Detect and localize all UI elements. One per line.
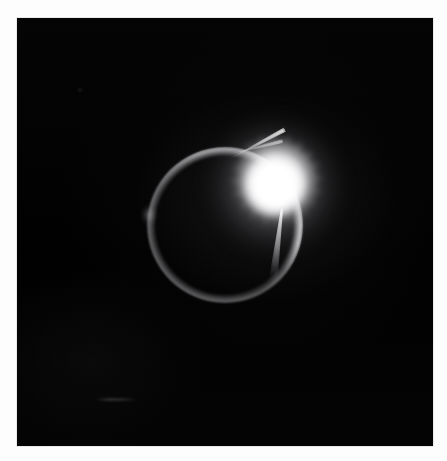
corona-ring-base	[147, 147, 303, 303]
film-base-texture	[17, 18, 433, 446]
flare-spike-upper-left	[229, 127, 286, 161]
eclipse-photograph	[17, 18, 433, 446]
dust-speck-artifact	[78, 89, 82, 91]
limb-brightening-bead	[141, 204, 157, 226]
corona-ring-upper-arc	[147, 147, 303, 303]
diamond-bead-core	[241, 151, 309, 219]
diamond-bead-ragged-halo	[218, 128, 332, 242]
photo-page: Total Solar Eclipse — Diamond Ring Black…	[0, 0, 447, 461]
emulsion-streak-artifact	[95, 398, 137, 401]
flare-spike-upper-left-secondary	[230, 139, 283, 156]
corona-ring-right-arc	[147, 147, 303, 303]
corona-ring-lower-arc	[147, 147, 303, 303]
flare-spike-downward-streamer	[269, 208, 287, 283]
diamond-bead-outer-glow	[197, 107, 353, 263]
